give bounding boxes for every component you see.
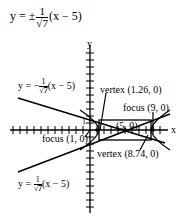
- equation-title: y = ±1√7(x − 5): [10, 6, 82, 29]
- asymptote-lower-label: y = 1√7(x − 5): [18, 176, 69, 193]
- vertex-right-label: vertex (8.74, 0): [97, 149, 159, 159]
- point-focus-left: [95, 128, 99, 132]
- focus-right-label: focus (9, 0): [123, 103, 169, 113]
- y-axis: [86, 45, 94, 213]
- asym-lower-fraction: 1√7: [34, 176, 42, 193]
- asym-upper-suffix: (x − 5): [48, 80, 75, 91]
- title-suffix: (x − 5): [49, 9, 82, 23]
- point-focus-right: [151, 128, 155, 132]
- asymptote-upper-label: y = −1√7(x − 5): [18, 78, 75, 95]
- title-den: √7: [36, 18, 48, 29]
- vertex-left-label: vertex (1.26, 0): [100, 85, 162, 95]
- asym-upper-fraction: 1√7: [39, 78, 47, 95]
- asym-lower-suffix: (x − 5): [42, 178, 69, 189]
- asym-lower-den: √7: [34, 185, 42, 193]
- title-prefix: y = ±: [10, 9, 35, 23]
- focus-left-label: focus (1, 0): [42, 134, 88, 144]
- asym-upper-den: √7: [39, 87, 47, 95]
- y-axis-label: y: [87, 39, 92, 49]
- asym-lower-prefix: y =: [18, 178, 34, 189]
- title-fraction: 1√7: [36, 6, 48, 29]
- x-axis-label: x: [171, 125, 176, 135]
- center-label: (5, 0): [116, 121, 138, 131]
- tick-label-1: 1: [82, 118, 86, 126]
- x-axis: [10, 126, 168, 134]
- asym-upper-prefix: y = −: [18, 80, 39, 91]
